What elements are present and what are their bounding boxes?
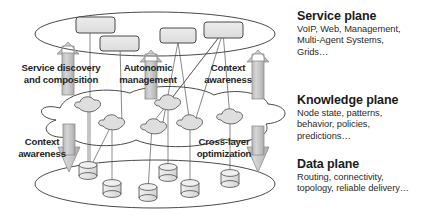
plane-legend: Service plane VoIP, Web, Management, Mul… [297, 0, 444, 215]
knowledge-node-cloud [177, 115, 203, 130]
arrow-label-autonomic-management: Autonomic management [112, 62, 184, 85]
legend-data-plane: Data plane Routing, connectivity, topolo… [297, 157, 444, 195]
arrow-label-line: Cross-layer [190, 136, 258, 148]
legend-desc-line: Node state, patterns, [297, 108, 444, 119]
arrow-label-line: optimization [190, 148, 258, 160]
service-node-box [76, 17, 115, 33]
diagram-root: Service discovery and composition Autono… [0, 0, 444, 215]
legend-desc-line: Grids… [297, 47, 444, 58]
knowledge-node-cloud [217, 109, 243, 124]
knowledge-plane-nodes [75, 95, 243, 134]
arrow-label-line: awareness [14, 148, 70, 160]
connection-line [120, 46, 122, 126]
data-node-cylinder [139, 184, 157, 202]
legend-desc-line: VoIP, Web, Management, [297, 24, 444, 35]
arrow-label-cross-layer-optimization: Cross-layer optimization [190, 136, 258, 159]
connection-line [148, 126, 152, 190]
data-plane-nodes [79, 162, 239, 202]
legend-title: Service plane [297, 9, 444, 23]
service-node-box [100, 36, 139, 51]
service-plane-nodes [76, 17, 243, 51]
arrow-label-line: management [112, 74, 184, 86]
knowledge-node-cloud [155, 95, 181, 110]
arrow-label-line: Context [200, 62, 256, 74]
arrow-label-context-awareness-lower: Context awareness [14, 136, 70, 159]
data-node-cylinder [103, 180, 121, 198]
service-node-box [160, 28, 196, 43]
data-node-cylinder [159, 164, 177, 182]
knowledge-node-cloud [141, 119, 167, 134]
legend-desc-line: behavior, policies, [297, 119, 444, 130]
arrow-label-service-discovery-and-composition: Service discovery and composition [6, 62, 116, 85]
arrow-label-line: Context [14, 136, 70, 148]
legend-knowledge-plane: Knowledge plane Node state, patterns, be… [297, 93, 444, 142]
arrow-label-line: awareness [200, 74, 256, 86]
legend-service-plane: Service plane VoIP, Web, Management, Mul… [297, 9, 444, 58]
legend-desc-line: predictions… [297, 131, 444, 142]
service-node-box [204, 22, 243, 38]
legend-title: Data plane [297, 157, 444, 171]
arrow-label-line: and composition [6, 74, 116, 86]
data-node-cylinder [79, 162, 97, 180]
service-plane-group [35, 12, 275, 56]
arrow-label-line: Autonomic [112, 62, 184, 74]
legend-desc-line: Routing, connectivity, [297, 172, 444, 183]
data-node-cylinder [221, 170, 239, 188]
knowledge-node-cloud [99, 115, 125, 130]
legend-desc-line: Multi-Agent Systems, [297, 35, 444, 46]
arrow-label-context-awareness-upper: Context awareness [200, 62, 256, 85]
data-node-cylinder [181, 180, 199, 198]
arrow-label-line: Service discovery [6, 62, 116, 74]
knowledge-node-cloud [75, 97, 101, 112]
legend-title: Knowledge plane [297, 93, 444, 107]
legend-desc-line: topology, reliable delivery… [297, 183, 444, 194]
